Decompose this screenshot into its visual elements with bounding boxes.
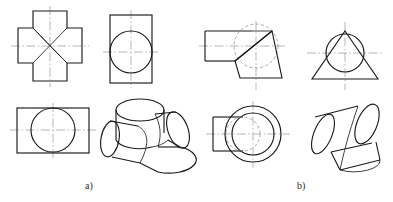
- right-cylinder-upper-edge: [155, 112, 176, 114]
- diagonal-line-upper-left: [33, 28, 50, 46]
- cylinder-upper-edge: [315, 106, 358, 117]
- a-top-view-cross: [11, 6, 89, 87]
- cylinder-end-ellipse: [307, 111, 339, 157]
- right-cylinder-end-ellipse: [162, 109, 194, 152]
- front-cylinder-left-edge: [140, 163, 158, 172]
- cone-bottom-edge: [340, 160, 380, 170]
- b-isometric-cone-cylinder: [307, 101, 384, 172]
- intersection-curve-right: [155, 114, 160, 147]
- left-cylinder-end-ellipse: [98, 120, 122, 159]
- cone-left-edge: [331, 152, 340, 170]
- a-isometric-cross-cylinders: [98, 99, 196, 173]
- left-cylinder-lower-edge: [112, 157, 140, 163]
- intersection-curve-left: [138, 126, 147, 163]
- cone-trapezoid-outline: [235, 31, 282, 78]
- cone-large-ellipse: [350, 101, 384, 147]
- cylinder-lower-edge: [331, 143, 372, 152]
- intersection-curve-center: [152, 140, 168, 147]
- front-cylinder-right-edge: [168, 140, 180, 147]
- cone-right-edge: [376, 142, 380, 160]
- diagonal-line-lower-right: [50, 46, 67, 63]
- a-front-view-rect-circle: [103, 10, 160, 88]
- b-front-view-triangle-circle: [307, 22, 383, 90]
- left-cylinder-upper-edge: [110, 121, 138, 126]
- b-top-view-cone-cylinder: [199, 21, 286, 90]
- a-side-view-rect-circle: [10, 103, 96, 158]
- front-cylinder-bottom-arc: [158, 147, 196, 173]
- technical-drawing-figure: a) b): [0, 0, 393, 202]
- drawing-canvas: [0, 0, 393, 202]
- b-side-view-circles-rect: [206, 101, 290, 168]
